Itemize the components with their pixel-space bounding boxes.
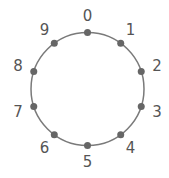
node-dot [117,131,124,138]
node-label: 4 [126,139,136,157]
node-dot [84,142,91,149]
node-label: 6 [40,139,50,157]
node-label: 5 [83,153,93,171]
node-label: 0 [83,7,93,25]
node-dot [117,40,124,47]
node-dot [51,131,58,138]
node-dot [30,68,37,75]
node-dot [30,103,37,110]
node-label: 2 [152,57,162,75]
node-label: 7 [13,103,23,121]
node-label: 3 [152,103,162,121]
node-dot [138,68,145,75]
node-dot [84,29,91,36]
number-ring-diagram: 0123456789 [0,0,169,178]
node-label: 9 [40,21,50,39]
node-label: 8 [13,57,23,75]
ring [31,33,144,146]
node-label: 1 [126,21,136,39]
node-dot [51,40,58,47]
node-dot [138,103,145,110]
